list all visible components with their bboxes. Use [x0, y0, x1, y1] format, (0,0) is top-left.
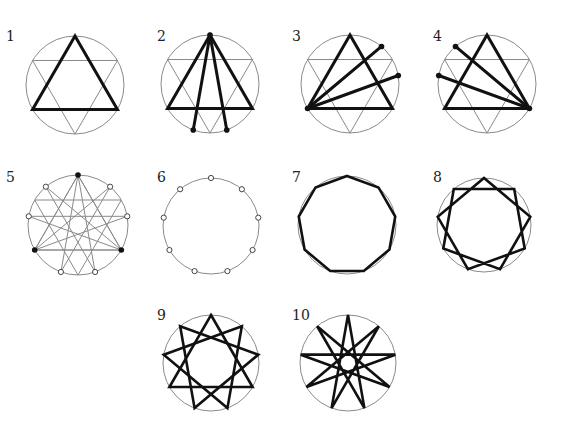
figure-label: 5 [6, 169, 15, 185]
thin-line [35, 187, 110, 250]
point-dot-open [161, 215, 166, 220]
figure-1: 1 [6, 28, 124, 134]
point-dot-open [192, 269, 197, 274]
point-dot-open [178, 187, 183, 192]
thin-line [29, 216, 122, 250]
circle-outline [301, 35, 399, 133]
point-dot-open [108, 184, 113, 189]
thin-line [46, 187, 121, 250]
circle-outline [300, 315, 396, 411]
thin-triangle-up [168, 35, 253, 109]
figure-label: 7 [292, 169, 301, 185]
point-dot-filled [190, 127, 196, 133]
circle-outline [26, 36, 124, 134]
star-polygon-9-4 [301, 315, 396, 408]
point-dot-open [256, 215, 261, 220]
circle-outline [163, 178, 259, 274]
figure-label: 6 [157, 169, 166, 185]
point-dot-open [208, 175, 213, 180]
figure-2: 2 [157, 28, 259, 133]
figure-label: 9 [157, 307, 166, 323]
thin-triangle-down [35, 200, 122, 275]
figure-label: 10 [292, 307, 310, 323]
figure-9: 9 [157, 307, 259, 411]
thin-line [35, 216, 128, 250]
circle-outline [438, 35, 536, 133]
figure-5: 5 [6, 169, 130, 275]
figure-label: 2 [157, 28, 166, 44]
figure-10: 10 [292, 307, 396, 411]
point-dot-open [43, 184, 48, 189]
point-dot-open [239, 187, 244, 192]
point-dot-open [167, 247, 172, 252]
point-dot-filled [305, 106, 311, 112]
thick-line [308, 75, 399, 108]
point-dot-filled [119, 247, 125, 253]
point-dot-filled [453, 44, 459, 50]
point-dot-filled [75, 172, 81, 178]
figure-label: 1 [6, 28, 15, 44]
point-dot-open [125, 214, 130, 219]
point-dot-filled [527, 106, 533, 112]
thick-line [456, 46, 530, 108]
point-dot-filled [379, 44, 385, 50]
figure-4: 4 [433, 28, 536, 133]
thick-line [308, 46, 382, 108]
figure-7: 7 [292, 169, 396, 274]
figures-group: 12345678910 [6, 28, 536, 411]
figure-label: 4 [433, 28, 442, 44]
point-dot-open [58, 269, 63, 274]
figure-6: 6 [157, 169, 261, 274]
point-dot-filled [32, 247, 38, 253]
thin-triangle-up [33, 36, 118, 110]
point-dot-filled [395, 73, 401, 79]
point-dot-filled [207, 32, 213, 38]
star-polygon-9-2 [438, 178, 531, 269]
circle-outline [163, 315, 259, 411]
star-polygon-9-1 [299, 176, 396, 271]
thin-triangle-down [168, 60, 253, 134]
figure-label: 3 [292, 28, 301, 44]
figure-3: 3 [292, 28, 401, 133]
point-dot-open [26, 214, 31, 219]
thick-triangle [33, 36, 118, 110]
thick-triangle [168, 35, 253, 109]
thick-line [439, 75, 530, 108]
point-dot-filled [224, 127, 230, 133]
figure-label: 8 [433, 169, 442, 185]
point-dot-open [225, 269, 230, 274]
point-dot-filled [436, 73, 442, 79]
point-dot-open [93, 269, 98, 274]
figure-8: 8 [433, 169, 531, 272]
point-dot-open [250, 247, 255, 252]
circle-outline [161, 35, 259, 133]
circle-outline [28, 175, 128, 275]
circle-outline [437, 178, 531, 272]
enneagram-diagram: 12345678910 [0, 0, 566, 435]
thin-triangle-down [33, 61, 118, 135]
